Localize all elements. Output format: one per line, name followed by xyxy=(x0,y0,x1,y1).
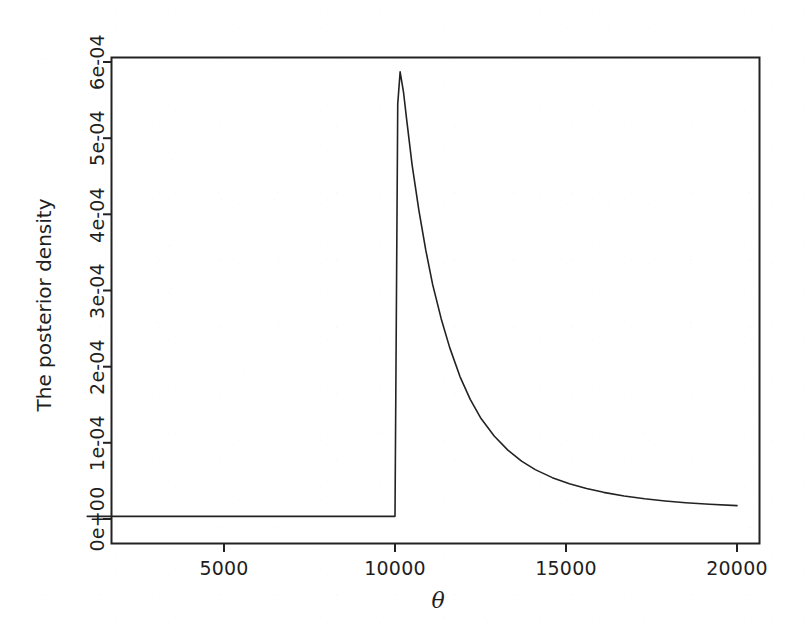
x-tick-label-10000: 10000 xyxy=(345,557,445,579)
plot-canvas xyxy=(0,0,805,631)
y-tick-label-4e-04: 4e-04 xyxy=(86,180,108,250)
y-tick-label-2e-04: 2e-04 xyxy=(86,332,108,402)
y-tick-label-5e-04: 5e-04 xyxy=(86,103,108,173)
x-axis-title: θ xyxy=(388,588,488,613)
x-tick-label-15000: 15000 xyxy=(516,557,616,579)
plot-frame-box xyxy=(112,58,760,544)
x-tick-label-20000: 20000 xyxy=(687,557,787,579)
x-axis-ticks xyxy=(224,544,737,553)
x-tick-label-5000: 5000 xyxy=(174,557,274,579)
y-tick-label-0e+00: 0e+00 xyxy=(86,484,108,554)
y-axis-title: The posterior density xyxy=(32,175,56,435)
posterior-density-curve xyxy=(87,72,737,516)
posterior-density-figure: 0e+00 1e-04 2e-04 3e-04 4e-04 5e-04 6e-0… xyxy=(0,0,805,631)
y-tick-label-1e-04: 1e-04 xyxy=(86,408,108,478)
y-tick-label-6e-04: 6e-04 xyxy=(86,27,108,97)
y-tick-label-3e-04: 3e-04 xyxy=(86,256,108,326)
